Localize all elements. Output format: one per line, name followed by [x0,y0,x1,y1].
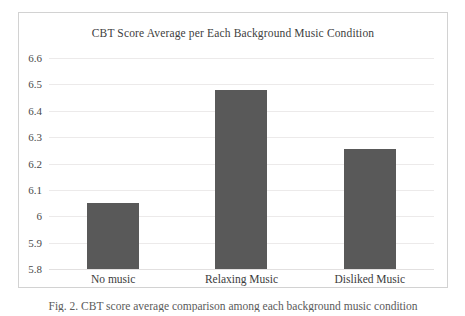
x-axis-tick-labels: No musicRelaxing MusicDisliked Music [49,273,434,293]
x-axis-tick-label: Disliked Music [335,273,406,285]
y-axis-tick-label: 5.9 [28,237,42,249]
plot-area: 6.66.56.46.36.26.165.95.8 [49,58,434,269]
bars-layer [49,58,434,269]
y-axis-tick-label: 5.8 [28,263,42,275]
bar-group [177,58,305,269]
y-axis-tick-label: 6 [37,210,43,222]
bar-group [49,58,177,269]
x-axis-tick-label: Relaxing Music [205,273,278,285]
y-axis-tick-label: 6.1 [28,184,42,196]
figure-panel: CBT Score Average per Each Background Mu… [18,12,448,288]
y-axis-tick-label: 6.3 [28,131,42,143]
y-axis-tick-label: 6.4 [28,105,42,117]
y-axis-tick-label: 6.6 [28,52,42,64]
chart-title: CBT Score Average per Each Background Mu… [19,27,447,39]
y-axis-tick-label: 6.5 [28,78,42,90]
bar-group [306,58,434,269]
x-axis-tick-label: No music [91,273,135,285]
bar [87,203,139,269]
gridline [49,269,434,270]
bar [344,149,396,269]
bar [215,90,267,269]
y-axis-tick-label: 6.2 [28,158,42,170]
figure-caption: Fig. 2. CBT score average comparison amo… [18,300,448,312]
